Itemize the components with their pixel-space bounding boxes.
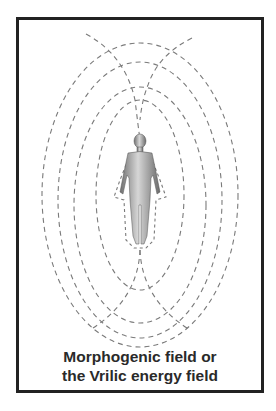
caption-line-1: Morphogenic field or <box>16 347 264 366</box>
human-figure <box>120 134 160 244</box>
caption-line-2: the Vrilic energy field <box>16 366 264 385</box>
